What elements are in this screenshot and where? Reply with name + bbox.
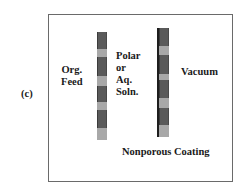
membrane-dark-segment (97, 32, 107, 49)
membrane-light-segment (159, 125, 169, 137)
org-feed-label: Org. Feed (61, 64, 83, 88)
membrane-light-segment (159, 98, 169, 108)
membrane-dark-segment (97, 110, 107, 128)
support-membrane-left (97, 32, 107, 140)
membrane-dark-segment (97, 57, 107, 76)
membrane-dark-segment (159, 108, 169, 125)
polar-solution-label: Polar or Aq. Soln. (116, 50, 141, 98)
panel-label: (c) (21, 88, 33, 100)
membrane-dark-segment (159, 28, 169, 46)
membrane-light-segment (97, 49, 107, 57)
membrane-light-segment (97, 76, 107, 86)
membrane-dark-segment (159, 80, 169, 98)
vacuum-label: Vacuum (181, 66, 218, 78)
membrane-light-segment (97, 128, 107, 140)
membrane-light-segment (97, 102, 107, 110)
membrane-light-segment (159, 46, 169, 55)
membrane-dark-segment (159, 55, 169, 74)
coated-membrane-right (159, 28, 169, 137)
membrane-dark-segment (97, 86, 107, 102)
nonporous-coating-label: Nonporous Coating (122, 146, 210, 158)
